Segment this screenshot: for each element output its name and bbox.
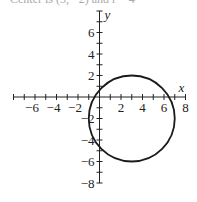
y-tick-label: 6 xyxy=(88,25,95,40)
y-tick-label: −2 xyxy=(81,111,95,126)
y-axis-label: y xyxy=(103,7,111,22)
y-tick-label: −6 xyxy=(81,154,95,169)
x-tick-label: −4 xyxy=(47,100,61,115)
x-axis-label: x xyxy=(178,80,185,95)
y-tick-label: −8 xyxy=(81,176,95,191)
y-tick-label: 4 xyxy=(88,47,95,62)
x-tick-label: 4 xyxy=(139,100,146,115)
x-tick-label: 2 xyxy=(118,100,125,115)
x-tick-label: −6 xyxy=(25,100,39,115)
y-tick-label: 2 xyxy=(88,68,95,83)
coordinate-plane: −6−4−22468642−2−4−6−8xy xyxy=(0,0,197,202)
x-tick-label: 6 xyxy=(161,100,168,115)
x-tick-label: 8 xyxy=(182,100,189,115)
